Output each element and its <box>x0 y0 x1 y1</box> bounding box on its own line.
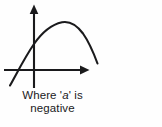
caption-variable-a: a <box>62 89 69 101</box>
caption: Where 'a' is negative <box>0 89 105 115</box>
caption-line-1: Where 'a' is <box>0 89 105 102</box>
parabola-curve <box>10 22 98 85</box>
caption-line-2: negative <box>0 102 105 115</box>
figure-root: Where 'a' is negative <box>0 0 162 127</box>
y-axis-up-arrow-icon <box>30 5 39 14</box>
x-axis-right-arrow-icon <box>80 66 90 75</box>
